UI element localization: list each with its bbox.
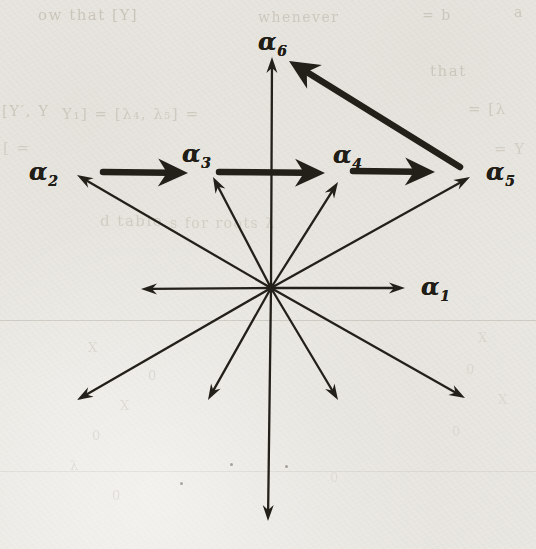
label-alpha-3: α3 (182, 142, 210, 166)
subscript: 6 (277, 43, 287, 59)
label-alpha-5: α5 (486, 160, 514, 184)
subscript: 4 (352, 156, 362, 172)
alpha-char: α (486, 157, 504, 186)
scanned-book-page: ow that [Y]whenever= bathat[Y′, YY₁] = [… (0, 0, 536, 549)
label-alpha-6: α6 (258, 30, 286, 54)
label-alpha-2: α2 (29, 160, 57, 184)
subscript: 2 (48, 173, 58, 189)
alpha-char: α (258, 27, 276, 56)
label-alpha-1: α1 (421, 275, 449, 299)
alpha-char: α (29, 157, 47, 186)
alpha-char: α (333, 140, 351, 169)
label-alpha-4: α4 (333, 143, 361, 167)
alpha-char: α (182, 139, 200, 168)
alpha-char: α (421, 272, 439, 301)
subscript: 5 (505, 173, 515, 189)
vector-labels: α6 α2 α3 α4 α5 α1 (0, 0, 536, 549)
subscript: 1 (440, 288, 450, 304)
subscript: 3 (201, 155, 211, 171)
